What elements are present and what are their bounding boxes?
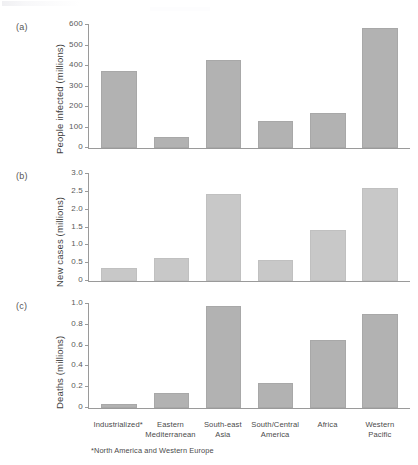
panel-b-bar-5 xyxy=(362,188,397,281)
panel-b-ytick-label-5: 2.5 xyxy=(71,186,83,195)
panel-a-ytick-label-1: 100 xyxy=(69,122,83,131)
panel-b-ytick-label-0: 0 xyxy=(78,275,83,284)
panel-c-bar-3 xyxy=(258,383,293,408)
panel-c-bar-1 xyxy=(154,393,189,408)
panel-b-bar-0 xyxy=(101,268,136,281)
panel-b-bar-slot-4 xyxy=(302,174,354,281)
panel-c-bar-slot-1 xyxy=(145,304,197,408)
panel-a-ytick-label-2: 200 xyxy=(69,101,83,110)
panel-b-ytick-label-1: 0.5 xyxy=(71,257,83,266)
panel-b-bar-4 xyxy=(310,230,345,281)
panel-a-letter: (a) xyxy=(16,22,28,32)
panel-b-bars xyxy=(89,174,410,281)
panel-c-ytick-label-4: 0.8 xyxy=(71,319,83,328)
panel-b-plot-area: 00.51.01.52.02.53.0 xyxy=(88,174,410,282)
figure-root: (a) People infected (millions) 010020030… xyxy=(0,0,418,465)
panel-c-bar-slot-3 xyxy=(250,304,302,408)
panel-b-bar-slot-0 xyxy=(93,174,145,281)
panel-c-bar-5 xyxy=(362,314,397,408)
panel-c-bar-slot-4 xyxy=(302,304,354,408)
panel-c-bar-2 xyxy=(206,306,241,408)
panel-a: (a) People infected (millions) 010020030… xyxy=(0,14,418,160)
category-label-1: EasternMediterranean xyxy=(144,420,196,440)
category-axis-labels: Industrialized*EasternMediterraneanSouth… xyxy=(88,420,410,440)
category-label-3: South/CentralAmerica xyxy=(249,420,301,440)
category-label-0: Industrialized* xyxy=(92,420,144,440)
panel-a-bar-3 xyxy=(258,121,293,148)
category-label-2: South-eastAsia xyxy=(197,420,249,440)
scan-artifact xyxy=(2,1,80,6)
panel-b-y-axis-label: New cases (millions) xyxy=(54,197,65,287)
panel-a-ytick-label-4: 400 xyxy=(69,60,83,69)
panel-b-ytick-label-4: 2.0 xyxy=(71,204,83,213)
panel-a-bar-1 xyxy=(154,137,189,148)
panel-a-bar-slot-1 xyxy=(145,25,197,148)
panel-a-bar-2 xyxy=(206,60,241,148)
panel-c-y-axis-label: Deaths (millions) xyxy=(54,336,65,409)
panel-a-bar-slot-0 xyxy=(93,25,145,148)
category-label-4: Africa xyxy=(301,420,353,440)
panel-c-plot-area: 00.20.40.60.81.0 xyxy=(88,304,410,409)
panel-a-bar-slot-3 xyxy=(250,25,302,148)
panel-b-bar-slot-5 xyxy=(354,174,406,281)
panel-a-plot-area: 0100200300400500600 xyxy=(88,25,410,149)
panel-b-bar-slot-1 xyxy=(145,174,197,281)
panel-c: (c) Deaths (millions) 00.20.40.60.81.0 xyxy=(0,293,418,420)
panel-a-bar-4 xyxy=(310,113,345,148)
panel-c-letter: (c) xyxy=(16,301,27,311)
panel-b-bar-2 xyxy=(206,194,241,281)
panel-c-bar-slot-0 xyxy=(93,304,145,408)
panel-b-ytick-label-3: 1.5 xyxy=(71,222,83,231)
panel-c-bar-0 xyxy=(101,404,136,408)
panel-a-bar-0 xyxy=(101,71,136,148)
figure-footnote: *North America and Western Europe xyxy=(91,446,214,455)
panel-b-ytick-label-6: 3.0 xyxy=(71,168,83,177)
panel-a-ytick-label-6: 600 xyxy=(69,19,83,28)
panel-a-y-axis-label: People infected (millions) xyxy=(54,44,65,154)
panel-b: (b) New cases (millions) 00.51.01.52.02.… xyxy=(0,163,418,293)
panel-a-bar-slot-5 xyxy=(354,25,406,148)
panel-c-ytick-label-0: 0 xyxy=(78,402,83,411)
panel-c-ytick-label-5: 1.0 xyxy=(71,298,83,307)
panel-a-ytick-label-5: 500 xyxy=(69,40,83,49)
panel-b-bar-slot-2 xyxy=(197,174,249,281)
panel-b-ytick-label-2: 1.0 xyxy=(71,239,83,248)
panel-c-ytick-label-2: 0.4 xyxy=(71,360,83,369)
panel-a-ytick-label-0: 0 xyxy=(78,142,83,151)
panel-c-ytick-label-1: 0.2 xyxy=(71,381,83,390)
panel-c-bar-4 xyxy=(310,340,345,408)
panel-a-ytick-label-3: 300 xyxy=(69,81,83,90)
panel-a-bar-slot-4 xyxy=(302,25,354,148)
panel-c-bar-slot-5 xyxy=(354,304,406,408)
panel-b-bar-1 xyxy=(154,258,189,281)
panel-b-bar-slot-3 xyxy=(250,174,302,281)
panel-c-bars xyxy=(89,304,410,408)
panel-a-bar-slot-2 xyxy=(197,25,249,148)
category-label-5: WesternPacific xyxy=(354,420,406,440)
panel-c-ytick-label-3: 0.6 xyxy=(71,340,83,349)
scan-artifact-secondary xyxy=(150,7,210,11)
panel-a-bars xyxy=(89,25,410,148)
panel-a-bar-5 xyxy=(362,28,397,148)
panel-b-letter: (b) xyxy=(16,171,28,181)
panel-b-bar-3 xyxy=(258,260,293,281)
panel-c-bar-slot-2 xyxy=(197,304,249,408)
